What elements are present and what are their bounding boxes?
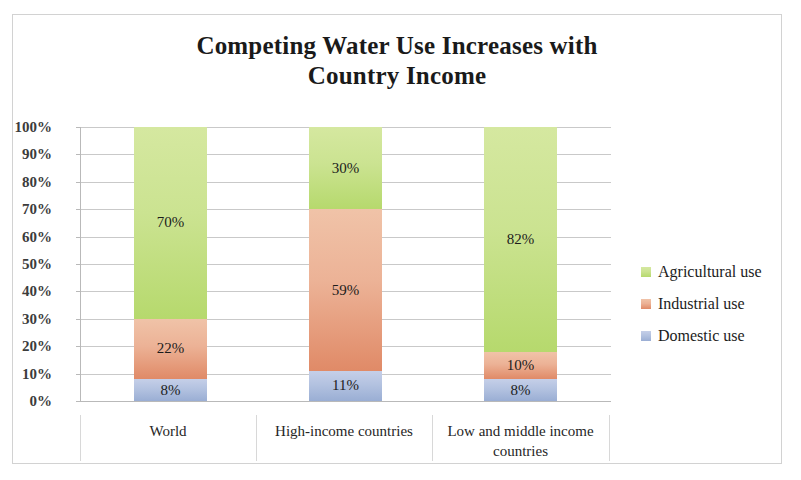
bar-segment-low-middle-income-industrial[interactable]: 10%: [484, 352, 557, 379]
legend-item-industrial-use[interactable]: Industrial use: [641, 288, 762, 320]
chart-legend: Agricultural use Industrial use Domestic…: [641, 256, 762, 352]
x-axis-label-low-middle-income-line-2: countries: [493, 443, 548, 459]
bar-label-high-income-agricultural: 30%: [332, 161, 360, 176]
y-tick-mark-100: [76, 127, 81, 128]
y-tick-label-60: 60%: [0, 228, 52, 245]
bar-segment-world-agricultural[interactable]: 70%: [134, 127, 207, 319]
bar-label-high-income-industrial: 59%: [332, 283, 360, 298]
legend-swatch-industrial-icon: [641, 299, 651, 309]
y-tick-mark-60: [76, 237, 81, 238]
chart-title-line-2: Country Income: [13, 61, 781, 91]
bar-segment-high-income-domestic[interactable]: 11%: [309, 371, 382, 401]
bar-segment-world-domestic[interactable]: 8%: [134, 379, 207, 401]
bar-label-low-middle-income-industrial: 10%: [507, 358, 535, 373]
chart-frame: Competing Water Use Increases with Count…: [12, 14, 782, 464]
y-tick-mark-40: [76, 291, 81, 292]
legend-item-agricultural-use[interactable]: Agricultural use: [641, 256, 762, 288]
y-tick-label-80: 80%: [0, 173, 52, 190]
y-tick-mark-90: [76, 154, 81, 155]
y-tick-mark-70: [76, 209, 81, 210]
y-tick-label-50: 50%: [0, 256, 52, 273]
bar-segment-high-income-industrial[interactable]: 59%: [309, 209, 382, 371]
legend-swatch-domestic-icon: [641, 331, 651, 341]
y-tick-mark-20: [76, 346, 81, 347]
x-axis-label-high-income: High-income countries: [256, 421, 432, 441]
x-axis-label-high-income-line-1: High-income countries: [275, 423, 413, 439]
y-tick-label-30: 30%: [0, 310, 52, 327]
legend-label-agricultural-use: Agricultural use: [658, 263, 762, 281]
y-tick-label-40: 40%: [0, 283, 52, 300]
y-tick-mark-80: [76, 182, 81, 183]
x-axis-label-low-middle-income: Low and middle income countries: [432, 421, 609, 461]
bar-segment-world-industrial[interactable]: 22%: [134, 319, 207, 379]
plot-area: 8% 22% 70% 11% 59% 30%: [80, 127, 611, 402]
legend-label-industrial-use: Industrial use: [658, 295, 745, 313]
bar-segment-low-middle-income-domestic[interactable]: 8%: [484, 379, 557, 401]
chart-title-line-1: Competing Water Use Increases with: [13, 31, 781, 61]
x-axis-label-low-middle-income-line-1: Low and middle income: [447, 423, 593, 439]
y-tick-label-20: 20%: [0, 338, 52, 355]
y-tick-mark-0: [76, 401, 81, 402]
x-axis-label-world: World: [80, 421, 256, 441]
x-axis-separator-3: [609, 415, 610, 461]
y-tick-mark-10: [76, 374, 81, 375]
bar-label-world-domestic: 8%: [161, 383, 181, 398]
bar-segment-low-middle-income-agricultural[interactable]: 82%: [484, 127, 557, 352]
y-tick-label-10: 10%: [0, 365, 52, 382]
legend-item-domestic-use[interactable]: Domestic use: [641, 320, 762, 352]
bar-column-low-middle-income[interactable]: 8% 10% 82%: [484, 127, 557, 401]
y-tick-mark-50: [76, 264, 81, 265]
legend-swatch-agricultural-icon: [641, 267, 651, 277]
y-tick-label-0: 0%: [0, 393, 52, 410]
bar-label-high-income-domestic: 11%: [332, 378, 359, 393]
y-tick-label-100: 100%: [0, 119, 52, 136]
bar-column-world[interactable]: 8% 22% 70%: [134, 127, 207, 401]
chart-title: Competing Water Use Increases with Count…: [13, 31, 781, 91]
bar-column-high-income[interactable]: 11% 59% 30%: [309, 127, 382, 401]
x-axis-label-world-line-1: World: [149, 423, 186, 439]
bar-label-low-middle-income-agricultural: 82%: [507, 232, 535, 247]
bar-label-world-industrial: 22%: [157, 341, 185, 356]
bar-label-world-agricultural: 70%: [157, 215, 185, 230]
chart-page: Competing Water Use Increases with Count…: [0, 0, 801, 480]
y-tick-label-70: 70%: [0, 201, 52, 218]
bar-label-low-middle-income-domestic: 8%: [511, 383, 531, 398]
bar-segment-high-income-agricultural[interactable]: 30%: [309, 127, 382, 209]
y-tick-label-90: 90%: [0, 146, 52, 163]
legend-label-domestic-use: Domestic use: [658, 327, 745, 345]
y-tick-mark-30: [76, 319, 81, 320]
